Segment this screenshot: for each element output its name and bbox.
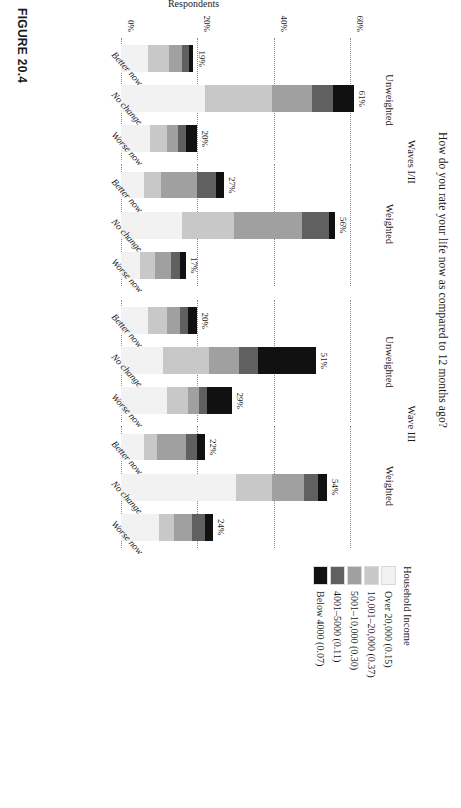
bar-value-label: 17% bbox=[189, 257, 199, 274]
bar-segment bbox=[329, 212, 335, 239]
bar-segment bbox=[188, 307, 198, 334]
bar-value-label: 54% bbox=[330, 479, 340, 496]
y-axis-tick-label: 20% bbox=[202, 16, 212, 33]
legend-swatch-icon bbox=[330, 566, 345, 585]
bar-value-label: 56% bbox=[338, 217, 348, 234]
bar-segment bbox=[236, 474, 272, 501]
bar-segment bbox=[199, 387, 207, 414]
bar-value-label: 27% bbox=[227, 177, 237, 194]
bar-segment bbox=[182, 45, 188, 72]
stacked-bar bbox=[121, 347, 316, 374]
legend-item: 10,001–20,000 (0.37) bbox=[364, 566, 379, 802]
legend-item: 4001–5000 (0.11) bbox=[330, 566, 345, 802]
bar-segment bbox=[171, 252, 181, 279]
bar-value-label: 20% bbox=[200, 131, 210, 148]
figure-caption: FIGURE 20.4 bbox=[15, 8, 29, 83]
bar-segment bbox=[159, 514, 174, 541]
legend-item: 5001–10,000 (0.30) bbox=[347, 566, 362, 802]
bar-segment bbox=[192, 514, 205, 541]
bar-segment bbox=[144, 172, 161, 199]
bar-segment bbox=[302, 212, 329, 239]
stacked-bar bbox=[121, 514, 213, 541]
bar-segment bbox=[167, 387, 188, 414]
figure-stage: How do you rate your life now as compare… bbox=[0, 0, 461, 808]
bar-segment bbox=[216, 172, 224, 199]
bar-segment bbox=[304, 474, 317, 501]
bar-segment bbox=[167, 125, 178, 152]
legend-item: Over 20,000 (0.15) bbox=[381, 566, 396, 802]
bar-segment bbox=[161, 172, 197, 199]
page-title: How do you rate your life now as compare… bbox=[437, 0, 449, 560]
stacked-bar bbox=[121, 387, 232, 414]
bar-segment bbox=[272, 474, 304, 501]
bar-segment bbox=[157, 434, 186, 461]
legend-title: Household Income bbox=[402, 566, 413, 802]
bar-segment bbox=[180, 252, 186, 279]
legend-item-label: 4001–5000 (0.11) bbox=[332, 591, 343, 662]
bar-segment bbox=[148, 307, 167, 334]
chart-subpanel: 27%Better now56%No change17%Worse now bbox=[121, 164, 373, 286]
chart-plot-area: 0%20%40%60%RespondentsWaves I/IIUnweight… bbox=[61, 0, 421, 560]
bar-segment bbox=[144, 434, 157, 461]
panel-subgroup-label: Unweighted bbox=[384, 38, 395, 162]
bar-value-label: 19% bbox=[197, 50, 207, 67]
bar-segment bbox=[189, 45, 194, 72]
bar-segment bbox=[180, 307, 188, 334]
bar-segment bbox=[174, 514, 191, 541]
bar-segment bbox=[209, 347, 240, 374]
panel-group-label: Wave III bbox=[406, 300, 417, 548]
bar-segment bbox=[333, 85, 354, 112]
bar-segment bbox=[169, 45, 182, 72]
stacked-bar bbox=[121, 172, 224, 199]
legend-item-label: 5001–10,000 (0.30) bbox=[349, 591, 360, 670]
stacked-bar bbox=[121, 474, 327, 501]
bar-segment bbox=[186, 434, 197, 461]
chart-subpanel: 22%Better now54%No change24%Worse now bbox=[121, 426, 373, 548]
legend-item-label: Below 4000 (0.07) bbox=[315, 591, 326, 666]
chart-subpanel: 20%Better now51%No change29%Worse now bbox=[121, 300, 373, 422]
bar-segment bbox=[148, 45, 169, 72]
stacked-bar bbox=[121, 85, 354, 112]
bar-value-label: 61% bbox=[357, 91, 367, 108]
bar-segment bbox=[186, 125, 197, 152]
panel-subgroup-label: Unweighted bbox=[384, 300, 395, 424]
y-axis-tick-label: 0% bbox=[126, 20, 136, 32]
bar-value-label: 51% bbox=[319, 353, 329, 370]
y-axis: 0%20%40%60%Respondents bbox=[121, 0, 373, 36]
bar-segment bbox=[121, 474, 236, 501]
legend-item-label: 10,001–20,000 (0.37) bbox=[366, 591, 377, 678]
legend-swatch-icon bbox=[381, 566, 396, 585]
legend-swatch-icon bbox=[313, 566, 328, 585]
bar-segment bbox=[140, 252, 155, 279]
bar-segment bbox=[155, 252, 170, 279]
y-axis-tick-label: 60% bbox=[355, 16, 365, 33]
bar-segment bbox=[197, 434, 205, 461]
bar-value-label: 29% bbox=[235, 393, 245, 410]
bar-value-label: 20% bbox=[200, 312, 210, 329]
bar-segment bbox=[318, 474, 328, 501]
legend-swatch-icon bbox=[364, 566, 379, 585]
bar-value-label: 22% bbox=[208, 439, 218, 456]
chart-panel: Waves I/IIUnweightedWeighted19%Better no… bbox=[61, 38, 421, 286]
panel-subgroup-label: Weighted bbox=[384, 424, 395, 548]
bar-segment bbox=[178, 125, 186, 152]
chart-subpanel: 19%Better now61%No change20%Worse now bbox=[121, 38, 373, 160]
bar-segment bbox=[163, 347, 209, 374]
bar-segment bbox=[234, 212, 303, 239]
y-axis-tick-label: 40% bbox=[279, 16, 289, 33]
bar-segment bbox=[197, 172, 216, 199]
legend: Household Income Over 20,000 (0.15)10,00… bbox=[311, 566, 413, 802]
bar-segment bbox=[207, 387, 232, 414]
legend-item: Below 4000 (0.07) bbox=[313, 566, 328, 802]
bar-value-label: 24% bbox=[216, 519, 226, 536]
stacked-bar bbox=[121, 212, 335, 239]
bar-segment bbox=[167, 307, 180, 334]
bar-segment bbox=[188, 387, 199, 414]
panel-subgroup-label: Weighted bbox=[384, 162, 395, 286]
bar-segment bbox=[272, 85, 312, 112]
chart-panel: Wave IIIUnweightedWeighted20%Better now5… bbox=[61, 300, 421, 548]
bar-segment bbox=[312, 85, 333, 112]
bar-segment bbox=[150, 125, 167, 152]
y-axis-title: Respondents bbox=[168, 0, 219, 9]
bar-segment bbox=[205, 85, 272, 112]
